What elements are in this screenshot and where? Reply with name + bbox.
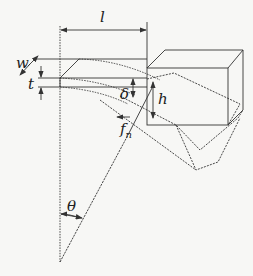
deflection-label: δ (120, 87, 129, 102)
length-label: l (100, 10, 105, 25)
diagram-canvas: l w t δ h fn θ (0, 0, 253, 276)
force-label: fn (120, 122, 132, 140)
thickness-label: t (28, 77, 34, 92)
angle-label: θ (67, 199, 76, 214)
height-label: h (158, 92, 168, 107)
width-label: w (16, 56, 29, 71)
